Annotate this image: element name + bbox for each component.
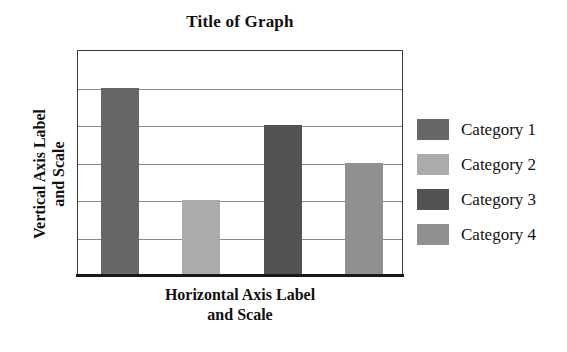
- bar-3: [264, 125, 302, 275]
- legend-label: Category 4: [461, 225, 536, 245]
- legend-swatch-icon: [417, 154, 449, 175]
- legend-label: Category 2: [461, 155, 536, 175]
- plot-area: [77, 50, 403, 275]
- horizontal-axis-label-line-1: Horizontal Axis Label: [77, 285, 403, 305]
- vertical-axis-label-line-1: Vertical Axis Label: [30, 59, 49, 289]
- legend-item-4[interactable]: Category 4: [417, 217, 536, 252]
- legend-label: Category 3: [461, 190, 536, 210]
- bar-series: [78, 51, 402, 275]
- bar-2: [182, 200, 220, 275]
- legend-item-2[interactable]: Category 2: [417, 147, 536, 182]
- legend-swatch-icon: [417, 189, 449, 210]
- horizontal-axis-label: Horizontal Axis Label and Scale: [77, 285, 403, 325]
- vertical-axis-label: Vertical Axis Label and Scale: [30, 59, 68, 289]
- bar-chart-figure: Title of Graph Vertical Axis Label and S…: [0, 0, 567, 352]
- x-axis-line: [76, 274, 404, 277]
- legend-label: Category 1: [461, 120, 536, 140]
- bar-1: [101, 88, 139, 276]
- bar-4: [345, 163, 383, 276]
- chart-legend: Category 1Category 2Category 3Category 4: [417, 112, 536, 252]
- legend-swatch-icon: [417, 224, 449, 245]
- chart-title: Title of Graph: [77, 12, 403, 32]
- legend-item-3[interactable]: Category 3: [417, 182, 536, 217]
- legend-item-1[interactable]: Category 1: [417, 112, 536, 147]
- horizontal-axis-label-line-2: and Scale: [77, 305, 403, 325]
- vertical-axis-label-line-2: and Scale: [49, 59, 68, 289]
- legend-swatch-icon: [417, 119, 449, 140]
